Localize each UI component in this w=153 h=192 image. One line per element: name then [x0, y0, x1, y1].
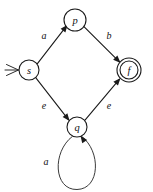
transition-s-to-p-label: a [42, 30, 47, 41]
state-q[interactable]: q [67, 117, 87, 137]
transition-q-self-loop-label: a [44, 156, 49, 167]
transition-s-to-q-line [36, 77, 69, 119]
transition-q-to-f[interactable]: e [85, 76, 123, 120]
transition-s-to-q[interactable]: e [36, 77, 72, 123]
state-p-label: p [71, 15, 77, 26]
automaton-canvas: a b e e [0, 0, 153, 192]
state-s-label: s [27, 65, 31, 76]
state-s[interactable]: s [19, 60, 39, 80]
state-p[interactable]: p [64, 9, 86, 31]
transition-q-to-f-label: e [107, 100, 112, 111]
state-q-label: q [74, 122, 79, 133]
transition-p-to-f-line [84, 27, 119, 62]
transition-s-to-p[interactable]: a [37, 23, 70, 64]
states-layer: s p q f [19, 9, 141, 137]
automaton-diagram: a b e e [0, 0, 153, 192]
transition-p-to-f[interactable]: b [84, 27, 123, 65]
transitions-layer: a b e e [36, 23, 123, 190]
transition-s-to-q-label: e [42, 100, 47, 111]
transition-q-self-loop[interactable]: a [44, 134, 96, 190]
transition-p-to-f-label: b [107, 30, 112, 41]
state-f[interactable]: f [117, 58, 141, 82]
transition-q-self-loop-path [58, 136, 95, 189]
start-arrow-marker [5, 65, 19, 76]
transition-q-to-f-line [85, 79, 119, 120]
